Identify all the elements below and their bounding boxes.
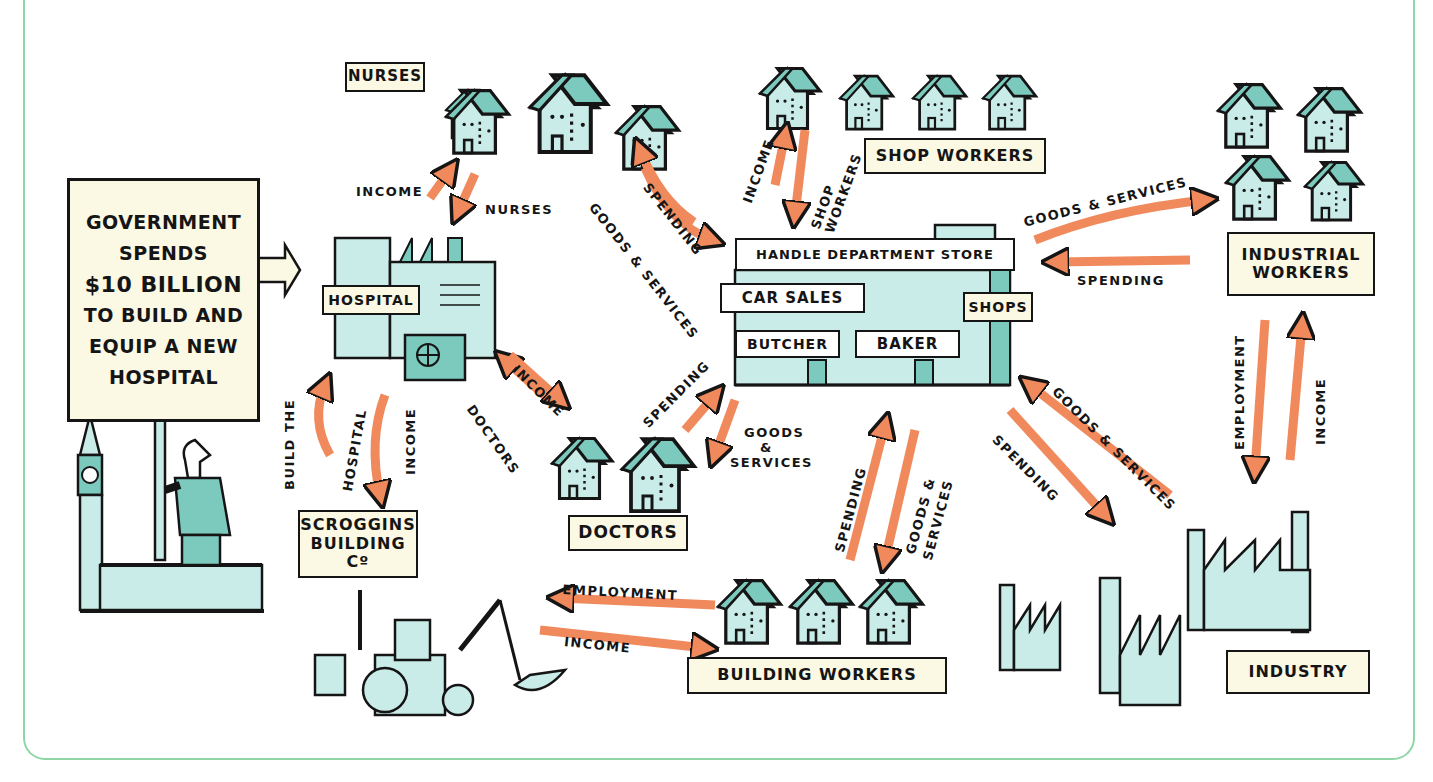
gov-line-5: EQUIP A NEW	[89, 331, 238, 362]
gov-line-4: TO BUILD AND	[84, 300, 244, 331]
shop-workers-houses	[760, 69, 1036, 130]
arrow-nurses-to-hospital	[458, 174, 475, 212]
label-doctors: DOCTORS	[568, 515, 688, 551]
gov-line-1: GOVERNMENT	[86, 207, 241, 238]
label-building-workers: BUILDING WORKERS	[687, 657, 947, 694]
sign-baker: BAKER	[855, 330, 960, 358]
scroggins-line-2: BUILDING Cº	[300, 535, 416, 572]
arrow-hospital-income	[375, 395, 385, 495]
politician-icon	[155, 420, 230, 565]
big-ben-icon	[78, 415, 264, 611]
industrial-workers-houses	[1218, 85, 1363, 220]
arrow-doctors-spending	[685, 395, 715, 430]
label-industrial-workers: INDUSTRIAL WORKERS	[1227, 232, 1375, 296]
government-spending-box: GOVERNMENT SPENDS $10 BILLION TO BUILD A…	[67, 178, 260, 422]
flow-build-the: BUILD THE	[282, 399, 297, 490]
flow-doctors-goods-3: SERVICES	[730, 455, 813, 470]
industrial-workers-line-1: INDUSTRIAL	[1242, 246, 1361, 264]
sign-butcher: BUTCHER	[735, 330, 840, 358]
arrow-industrial-employment	[1255, 320, 1265, 470]
arrow-shop-workers	[795, 130, 805, 215]
industrial-workers-line-2: WORKERS	[1252, 264, 1350, 282]
flow-doctors-goods-2: &	[760, 440, 773, 455]
sign-department-store: HANDLE DEPARTMENT STORE	[735, 238, 1015, 271]
label-scroggins: SCROGGINS BUILDING Cº	[298, 510, 418, 578]
flow-nurses-income: INCOME	[356, 184, 423, 199]
flow-arrows	[319, 130, 1302, 648]
sign-car-sales: CAR SALES	[720, 283, 865, 313]
gov-line-2: SPENDS	[119, 238, 208, 269]
gov-to-hospital-arrow	[258, 245, 300, 295]
gov-line-3: $10 BILLION	[85, 269, 242, 300]
gov-line-6: HOSPITAL	[109, 362, 218, 393]
label-shops: SHOPS	[963, 292, 1033, 322]
label-nurses: NURSES	[345, 62, 425, 92]
label-industry: INDUSTRY	[1226, 650, 1370, 694]
doctors-houses	[552, 439, 694, 512]
arrow-build-hospital	[319, 385, 330, 455]
flow-nurses-labour: NURSES	[485, 202, 553, 217]
building-workers-houses	[718, 581, 922, 643]
label-hospital: HOSPITAL	[322, 285, 420, 315]
arrow-industrial-income	[1290, 325, 1302, 460]
label-shop-workers: SHOP WORKERS	[864, 138, 1046, 174]
scroggins-line-1: SCROGGINS	[300, 516, 415, 534]
flow-iw-income: INCOME	[1313, 378, 1328, 445]
flow-iw-employment: EMPLOYMENT	[1232, 334, 1247, 450]
flow-doctors-goods-1: GOODS	[744, 425, 804, 440]
arrow-income-to-nurses	[430, 170, 450, 198]
flow-industrial-spending: SPENDING	[1077, 273, 1165, 288]
arrow-goods-to-doctors	[715, 400, 735, 455]
flow-scroggins-income: INCOME	[403, 408, 418, 475]
digger-icon	[315, 590, 565, 715]
arrow-industrial-spending	[1055, 260, 1190, 262]
